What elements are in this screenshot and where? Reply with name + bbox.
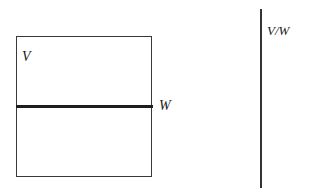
quotient-space-line bbox=[260, 9, 262, 188]
label-v: V bbox=[22, 50, 31, 64]
label-w: W bbox=[159, 99, 171, 113]
label-v-over-w: V/W bbox=[267, 24, 289, 37]
subspace-divider-line bbox=[16, 105, 153, 108]
